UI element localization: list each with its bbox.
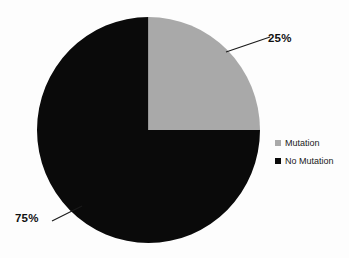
pie-chart-figure: 25% 75% Mutation No Mutation	[0, 0, 349, 258]
data-label-mutation: 25%	[268, 33, 292, 45]
legend-swatch-no-mutation	[275, 158, 281, 164]
leader-line-no-mutation	[50, 202, 86, 228]
legend-label-mutation: Mutation	[285, 139, 320, 148]
leader-line-mutation	[222, 30, 272, 56]
legend-swatch-mutation	[275, 140, 281, 146]
legend-label-no-mutation: No Mutation	[285, 157, 334, 166]
chart-legend: Mutation No Mutation	[275, 134, 349, 170]
legend-item-mutation[interactable]: Mutation	[275, 134, 349, 152]
legend-item-no-mutation[interactable]: No Mutation	[275, 152, 349, 170]
data-label-no-mutation: 75%	[15, 213, 39, 225]
